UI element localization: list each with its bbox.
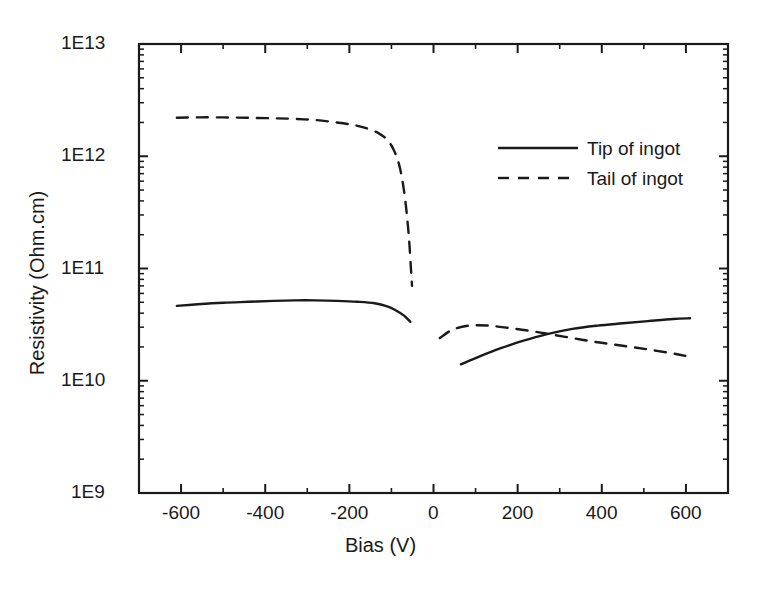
x-axis-title: Bias (V): [0, 534, 761, 557]
ytick-label-1e11: 1E11: [61, 257, 104, 279]
ytick-label-1e10: 1E10: [61, 369, 105, 391]
series-path-tip-of-ingot-positive-bias: [461, 318, 690, 364]
series-path-tip-of-ingot-negative-bias: [177, 300, 410, 321]
axis-ticks: [139, 44, 728, 493]
xtick-label-400: 400: [586, 502, 618, 524]
xtick-label-minus400: -400: [246, 502, 284, 524]
xtick-label-600: 600: [670, 502, 702, 524]
axes-frame: [139, 44, 728, 493]
ytick-label-1e9: 1E9: [71, 481, 105, 503]
xtick-label-zero: 0: [428, 502, 439, 524]
xtick-label-200: 200: [502, 502, 534, 524]
chart-canvas: [0, 0, 761, 589]
xtick-label-minus200: -200: [330, 502, 368, 524]
ytick-label-1e13: 1E13: [61, 32, 105, 54]
figure-container: 1E13 1E12 1E11 1E10 1E9 -600 -400 -200 0…: [0, 0, 761, 589]
xtick-label-minus600: -600: [162, 502, 200, 524]
legend-label-tip-of-ingot: Tip of ingot: [587, 138, 680, 160]
y-axis-title: Resistivity (Ohm.cm): [26, 133, 49, 433]
legend-sample-lines: [498, 148, 578, 178]
legend-label-tail-of-ingot: Tail of ingot: [587, 168, 683, 190]
series-path-tail-of-ingot-negative-bias: [177, 117, 412, 286]
ytick-label-1e12: 1E12: [61, 144, 105, 166]
